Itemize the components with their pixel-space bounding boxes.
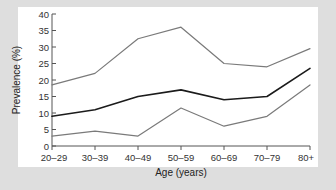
- x-tick-label-30-39: 30–39: [82, 152, 108, 163]
- y-tick-label-15: 15: [38, 91, 49, 102]
- x-tick-label-50-59: 50–59: [168, 152, 194, 163]
- y-axis-tick-marks: [52, 14, 56, 146]
- x-tick-label-70-79: 70–79: [254, 152, 280, 163]
- y-tick-label-40: 40: [38, 9, 49, 20]
- y-tick-label-20: 20: [38, 75, 49, 86]
- y-tick-label-5: 5: [44, 124, 49, 135]
- x-axis-title: Age (years): [155, 167, 207, 178]
- chart-figure: Prevalence (%) 0 5 10 15 20 25 30 35 40: [0, 0, 336, 190]
- line-chart: Prevalence (%) 0 5 10 15 20 25 30 35 40: [0, 0, 336, 190]
- x-axis-tick-labels: 20–29 30–39 40–49 50–59 60–69 70–79 80+: [41, 152, 315, 163]
- y-tick-label-35: 35: [38, 25, 49, 36]
- series-line-central-estimate: [52, 68, 310, 116]
- y-tick-label-30: 30: [38, 42, 49, 53]
- x-tick-label-20-29: 20–29: [41, 152, 67, 163]
- x-tick-label-80-plus: 80+: [298, 152, 315, 163]
- series-line-upper-bound: [52, 27, 310, 85]
- data-series-group: [52, 27, 310, 136]
- x-tick-label-60-69: 60–69: [211, 152, 237, 163]
- y-axis-tick-labels: 0 5 10 15 20 25 30 35 40: [38, 9, 49, 152]
- x-tick-label-40-49: 40–49: [125, 152, 151, 163]
- y-axis-title: Prevalence (%): [11, 46, 22, 114]
- y-tick-label-10: 10: [38, 108, 49, 119]
- x-axis-tick-marks: [52, 146, 310, 150]
- y-tick-label-0: 0: [44, 141, 49, 152]
- y-tick-label-25: 25: [38, 58, 49, 69]
